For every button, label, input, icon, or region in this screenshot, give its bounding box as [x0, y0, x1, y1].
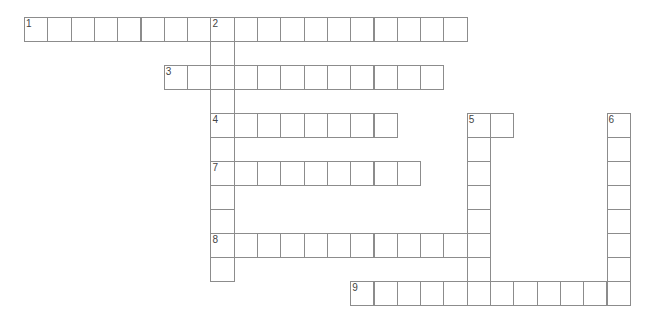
- crossword-cell[interactable]: [187, 17, 211, 42]
- crossword-cell[interactable]: [537, 281, 561, 306]
- crossword-cell[interactable]: [234, 17, 258, 42]
- crossword-cell[interactable]: [210, 209, 234, 234]
- crossword-cell[interactable]: [327, 113, 351, 138]
- crossword-cell[interactable]: [210, 185, 234, 210]
- crossword-cell[interactable]: [420, 281, 444, 306]
- crossword-cell[interactable]: [280, 113, 304, 138]
- crossword-cell[interactable]: [397, 233, 421, 258]
- crossword-cell[interactable]: [467, 185, 491, 210]
- crossword-cell[interactable]: [443, 17, 467, 42]
- crossword-cell[interactable]: [257, 161, 281, 186]
- crossword-cell[interactable]: [467, 161, 491, 186]
- clue-number: 9: [352, 282, 358, 293]
- crossword-cell[interactable]: [350, 161, 374, 186]
- crossword-cell[interactable]: [443, 233, 467, 258]
- crossword-cell[interactable]: [234, 233, 258, 258]
- crossword-cell[interactable]: [350, 17, 374, 42]
- crossword-cell[interactable]: [257, 17, 281, 42]
- clue-number: 8: [212, 234, 218, 245]
- crossword-cell[interactable]: [257, 233, 281, 258]
- crossword-cell[interactable]: 3: [164, 65, 188, 90]
- crossword-cell[interactable]: [607, 137, 631, 162]
- crossword-cell[interactable]: [280, 65, 304, 90]
- crossword-cell[interactable]: 5: [467, 113, 491, 138]
- crossword-cell[interactable]: [210, 41, 234, 66]
- crossword-cell[interactable]: [210, 137, 234, 162]
- crossword-cell[interactable]: [304, 233, 328, 258]
- crossword-cell[interactable]: [374, 65, 398, 90]
- crossword-cell[interactable]: [420, 65, 444, 90]
- crossword-cell[interactable]: [257, 65, 281, 90]
- crossword-cell[interactable]: [420, 233, 444, 258]
- crossword-cell[interactable]: [327, 161, 351, 186]
- clue-number: 4: [212, 114, 218, 125]
- crossword-cell[interactable]: [374, 17, 398, 42]
- crossword-cell[interactable]: [304, 161, 328, 186]
- clue-number: 6: [609, 114, 615, 125]
- crossword-cell[interactable]: 9: [350, 281, 374, 306]
- crossword-cell[interactable]: [397, 161, 421, 186]
- crossword-cell[interactable]: [280, 233, 304, 258]
- crossword-cell[interactable]: [304, 17, 328, 42]
- crossword-cell[interactable]: [117, 17, 141, 42]
- crossword-cell[interactable]: [397, 65, 421, 90]
- crossword-cell[interactable]: [210, 257, 234, 282]
- crossword-cell[interactable]: [607, 257, 631, 282]
- crossword-cell[interactable]: [164, 17, 188, 42]
- crossword-cell[interactable]: [304, 65, 328, 90]
- crossword-cell[interactable]: [443, 281, 467, 306]
- crossword-cell[interactable]: [327, 17, 351, 42]
- crossword-cell[interactable]: [560, 281, 584, 306]
- crossword-cell[interactable]: [350, 113, 374, 138]
- clue-number: 1: [26, 18, 32, 29]
- crossword-cell[interactable]: [607, 209, 631, 234]
- crossword-cell[interactable]: [490, 113, 514, 138]
- crossword-cell[interactable]: [94, 17, 118, 42]
- crossword-cell[interactable]: [257, 113, 281, 138]
- clue-number: 5: [469, 114, 475, 125]
- crossword-cell[interactable]: 1: [24, 17, 48, 42]
- crossword-cell[interactable]: [47, 17, 71, 42]
- crossword-cell[interactable]: [513, 281, 537, 306]
- crossword-cell[interactable]: 2: [210, 17, 234, 42]
- crossword-cell[interactable]: [607, 281, 631, 306]
- crossword-cell[interactable]: [234, 113, 258, 138]
- crossword-cell[interactable]: [234, 161, 258, 186]
- crossword-cell[interactable]: [583, 281, 607, 306]
- crossword-cell[interactable]: [280, 17, 304, 42]
- crossword-cell[interactable]: [374, 281, 398, 306]
- crossword-cell[interactable]: [397, 281, 421, 306]
- crossword-cell[interactable]: [71, 17, 95, 42]
- crossword-cell[interactable]: [467, 233, 491, 258]
- crossword-cell[interactable]: [350, 65, 374, 90]
- crossword-cell[interactable]: 7: [210, 161, 234, 186]
- crossword-cell[interactable]: [607, 233, 631, 258]
- crossword-cell[interactable]: [374, 113, 398, 138]
- crossword-cell[interactable]: [141, 17, 165, 42]
- crossword-cell[interactable]: [397, 17, 421, 42]
- crossword-cell[interactable]: [467, 137, 491, 162]
- clue-number: 2: [212, 18, 218, 29]
- crossword-cell[interactable]: 8: [210, 233, 234, 258]
- crossword-cell[interactable]: [210, 89, 234, 114]
- crossword-cell[interactable]: [467, 257, 491, 282]
- crossword-cell[interactable]: [187, 65, 211, 90]
- crossword-cell[interactable]: [280, 161, 304, 186]
- crossword-cell[interactable]: [374, 161, 398, 186]
- crossword-cell[interactable]: [350, 233, 374, 258]
- crossword-cell[interactable]: [607, 185, 631, 210]
- clue-number: 3: [166, 66, 172, 77]
- crossword-cell[interactable]: [374, 233, 398, 258]
- crossword-cell[interactable]: [467, 209, 491, 234]
- crossword-cell[interactable]: [210, 65, 234, 90]
- crossword-cell[interactable]: [234, 65, 258, 90]
- crossword-cell[interactable]: 4: [210, 113, 234, 138]
- crossword-cell[interactable]: [490, 281, 514, 306]
- crossword-cell[interactable]: 6: [607, 113, 631, 138]
- crossword-cell[interactable]: [304, 113, 328, 138]
- crossword-cell[interactable]: [607, 161, 631, 186]
- crossword-cell[interactable]: [327, 233, 351, 258]
- crossword-cell[interactable]: [420, 17, 444, 42]
- crossword-cell[interactable]: [467, 281, 491, 306]
- crossword-cell[interactable]: [327, 65, 351, 90]
